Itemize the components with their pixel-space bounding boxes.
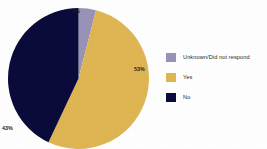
page-title (0, 0, 180, 2)
legend-item-unknown[interactable]: Unknown/Did not respond (166, 50, 267, 64)
legend-label-yes: Yes (183, 74, 192, 81)
pie-slice-value-no: 43% (2, 125, 13, 131)
pie-slice-value-yes: 53% (134, 66, 145, 72)
legend-item-no[interactable]: No (166, 90, 267, 104)
pie-chart-figure: 4% 53% 43% Unknown/Did not respond Yes N… (0, 0, 267, 149)
legend-label-unknown: Unknown/Did not respond (183, 54, 250, 61)
legend-swatch-icon-no (166, 93, 176, 102)
pie-svg (6, 8, 151, 149)
pie-plot-area: 4% 53% 43% (6, 8, 151, 149)
legend-label-no: No (183, 94, 190, 101)
legend-swatch-icon-yes (166, 73, 176, 82)
legend-swatch-icon-unknown (166, 53, 176, 62)
chart-legend: Unknown/Did not respond Yes No (166, 50, 267, 110)
pie-slice-value-unknown: 4% (72, 8, 80, 14)
legend-item-yes[interactable]: Yes (166, 70, 267, 84)
